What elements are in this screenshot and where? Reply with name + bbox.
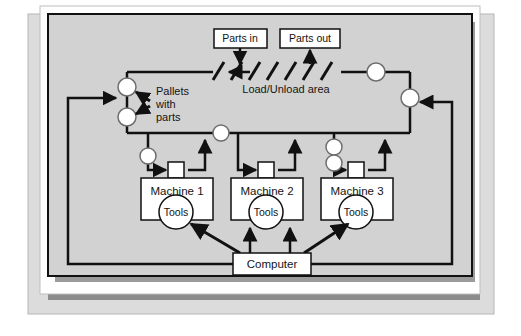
pallet-node-top-right (367, 63, 385, 81)
tools-1-label: Tools (164, 206, 189, 218)
pallet-node-machine-1 (140, 148, 156, 164)
parts-out-label: Parts out (289, 32, 331, 44)
tools-2-label: Tools (254, 206, 279, 218)
pallet-node-bottom-left (118, 108, 136, 126)
pallet-node-machine-3-upper (326, 139, 342, 155)
tools-circle-2: Tools (249, 195, 283, 229)
diagram-canvas: Machine 1 Machine 2 Machine 3 Tools Tool… (0, 0, 521, 336)
pallet-node-top-left (118, 78, 136, 96)
pallet-node-center (213, 125, 229, 141)
machine-3-port (348, 162, 364, 178)
inner-panel (48, 14, 472, 276)
machine-1-port (168, 162, 184, 178)
computer-label: Computer (247, 258, 298, 270)
parts-out-box: Parts out (280, 29, 340, 48)
pallets-label-line-2: with (155, 98, 176, 110)
parts-in-label: Parts in (222, 32, 258, 44)
pallets-label-line-3: parts (156, 111, 181, 123)
tools-3-label: Tools (344, 206, 369, 218)
pallet-node-machine-3-lower (326, 155, 342, 171)
load-unload-area-label: Load/Unload area (242, 83, 330, 95)
tools-circle-3: Tools (339, 195, 373, 229)
machine-2-port (258, 162, 274, 178)
pallet-node-right (401, 89, 419, 107)
pallets-label-line-1: Pallets (156, 85, 190, 97)
computer-box: Computer (233, 253, 311, 275)
tools-circle-1: Tools (159, 195, 193, 229)
parts-in-box: Parts in (214, 29, 267, 48)
